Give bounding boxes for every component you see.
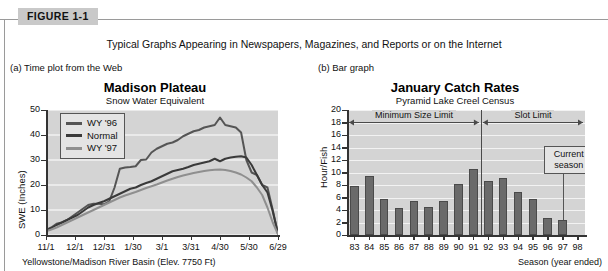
panel-label-b: (b) Bar graph bbox=[318, 62, 374, 73]
left-y-ticklabel: 30 bbox=[14, 154, 40, 164]
right-y-tick bbox=[342, 172, 348, 174]
right-x-ticklabel: 98 bbox=[566, 242, 590, 252]
current-season-callout: Current season bbox=[544, 146, 585, 174]
left-x-tick bbox=[104, 235, 106, 240]
right-x-tick bbox=[369, 235, 371, 240]
right-y-tick bbox=[342, 135, 348, 137]
left-x-tick bbox=[46, 235, 48, 240]
right-x-tick bbox=[399, 235, 401, 240]
right-x-tick bbox=[443, 235, 445, 240]
right-y-ticklabel: 6 bbox=[321, 192, 341, 202]
figure-left-stub bbox=[4, 19, 18, 20]
legend-item-normal: Normal bbox=[66, 130, 118, 143]
right-y-ticklabel: 4 bbox=[321, 204, 341, 214]
left-y-tick bbox=[41, 110, 47, 112]
right-y-tick bbox=[342, 210, 348, 212]
left-x-tick bbox=[162, 235, 164, 240]
right-x-tick bbox=[354, 235, 356, 240]
right-x-tick bbox=[488, 235, 490, 240]
figure-caption: Typical Graphs Appearing in Newspapers, … bbox=[0, 38, 608, 50]
left-y-tick bbox=[41, 185, 47, 187]
right-y-tick bbox=[342, 122, 348, 124]
left-x-tick bbox=[220, 235, 222, 240]
left-y-tick bbox=[41, 160, 47, 162]
left-y-ticklabel: 40 bbox=[14, 129, 40, 139]
right-x-tick bbox=[577, 235, 579, 240]
right-y-tick bbox=[342, 185, 348, 187]
right-y-ticklabel: 12 bbox=[321, 154, 341, 164]
left-x-tick bbox=[249, 235, 251, 240]
left-y-tick bbox=[41, 135, 47, 137]
right-y-tick bbox=[342, 160, 348, 162]
left-chart-title: Madison Plateau bbox=[30, 80, 280, 95]
right-y-ticklabel: 2 bbox=[321, 217, 341, 227]
left-x-ticklabel: 6/29 bbox=[256, 242, 300, 252]
left-chart-x-axis bbox=[46, 235, 280, 237]
left-chart-legend: WY '96 Normal WY '97 bbox=[60, 113, 125, 159]
left-y-ticklabel: 10 bbox=[14, 204, 40, 214]
right-x-tick bbox=[384, 235, 386, 240]
right-x-tick bbox=[547, 235, 549, 240]
figure-root: FIGURE 1-1 Typical Graphs Appearing in N… bbox=[0, 0, 608, 271]
left-x-tick bbox=[133, 235, 135, 240]
figure-number-badge: FIGURE 1-1 bbox=[18, 8, 98, 25]
left-x-tick bbox=[75, 235, 77, 240]
legend-swatch-wy97 bbox=[66, 147, 82, 150]
right-y-ticklabel: 8 bbox=[321, 179, 341, 189]
right-x-tick bbox=[532, 235, 534, 240]
legend-item-wy97: WY '97 bbox=[66, 142, 118, 155]
right-chart-subtitle: Pyramid Lake Creel Census bbox=[330, 95, 580, 106]
legend-item-wy96: WY '96 bbox=[66, 117, 118, 130]
left-chart-y-axis bbox=[46, 110, 48, 235]
figure-left-rule bbox=[4, 19, 5, 271]
right-x-tick bbox=[413, 235, 415, 240]
right-chart-title: January Catch Rates bbox=[330, 80, 580, 95]
right-x-tick bbox=[428, 235, 430, 240]
right-chart-plot-area: Minimum Size LimitSlot LimitCurrent seas… bbox=[347, 110, 585, 235]
right-y-ticklabel: 14 bbox=[321, 142, 341, 152]
legend-swatch-wy96 bbox=[66, 122, 82, 125]
left-x-tick bbox=[278, 235, 280, 240]
left-y-ticklabel: 50 bbox=[14, 104, 40, 114]
left-chart-x-axis-label: Yellowstone/Madison River Basin (Elev. 7… bbox=[22, 257, 216, 267]
left-y-ticklabel: 0 bbox=[14, 229, 40, 239]
current-season-leader-line bbox=[563, 174, 564, 220]
right-chart-x-axis-label: Season (year ended) bbox=[518, 257, 602, 267]
right-x-tick bbox=[458, 235, 460, 240]
left-chart-subtitle: Snow Water Equivalent bbox=[30, 95, 280, 106]
right-y-tick bbox=[342, 147, 348, 149]
right-y-ticklabel: 0 bbox=[321, 229, 341, 239]
annot-minimum-size-limit: Minimum Size Limit bbox=[372, 110, 456, 120]
right-y-tick bbox=[342, 197, 348, 199]
annot-slot-limit: Slot Limit bbox=[511, 110, 554, 120]
right-y-ticklabel: 18 bbox=[321, 117, 341, 127]
left-y-tick bbox=[41, 210, 47, 212]
right-y-tick bbox=[342, 110, 348, 112]
right-x-tick bbox=[503, 235, 505, 240]
legend-swatch-normal bbox=[66, 134, 82, 137]
right-x-tick bbox=[562, 235, 564, 240]
legend-label-wy96: WY '96 bbox=[87, 117, 117, 130]
right-x-tick bbox=[518, 235, 520, 240]
right-y-tick bbox=[342, 222, 348, 224]
legend-label-wy97: WY '97 bbox=[87, 142, 117, 155]
panel-label-a: (a) Time plot from the Web bbox=[10, 62, 122, 73]
left-y-ticklabel: 20 bbox=[14, 179, 40, 189]
left-x-tick bbox=[191, 235, 193, 240]
right-x-tick bbox=[473, 235, 475, 240]
right-y-ticklabel: 16 bbox=[321, 129, 341, 139]
right-y-ticklabel: 20 bbox=[321, 104, 341, 114]
legend-label-normal: Normal bbox=[87, 130, 118, 143]
right-y-ticklabel: 10 bbox=[321, 167, 341, 177]
